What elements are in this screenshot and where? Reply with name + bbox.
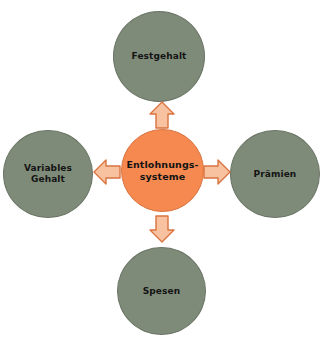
diagram-canvas: Festgehalt Variables Gehalt Prämien Spes… <box>0 0 323 340</box>
node-spesen[interactable]: Spesen <box>117 247 206 335</box>
node-praemien-label: Prämien <box>248 169 303 180</box>
node-festgehalt[interactable]: Festgehalt <box>113 11 205 102</box>
node-spesen-label: Spesen <box>137 286 187 297</box>
arrow-up-icon <box>148 101 176 129</box>
node-praemien[interactable]: Prämien <box>230 130 320 218</box>
arrow-right-icon <box>203 158 231 186</box>
arrow-down-icon <box>148 215 176 243</box>
arrow-left-icon <box>93 158 121 186</box>
node-entlohnungssysteme[interactable]: Entlohnungs- systeme <box>121 129 204 212</box>
node-festgehalt-label: Festgehalt <box>126 51 193 62</box>
node-variables-gehalt-label: Variables Gehalt <box>18 163 78 185</box>
node-entlohnungssysteme-label: Entlohnungs- systeme <box>120 159 204 182</box>
node-variables-gehalt[interactable]: Variables Gehalt <box>3 130 93 218</box>
